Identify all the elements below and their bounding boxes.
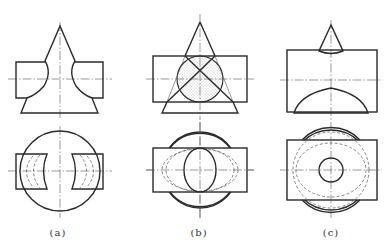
panel-c-front-view [280,20,382,120]
panel-c-label: (c) [323,227,339,238]
panel-b-top-view [146,122,254,218]
engineering-drawing [0,0,390,249]
panel-a-top-view [8,126,112,218]
panel-a-label: (a) [50,227,67,238]
panel-c-top-view [280,122,382,218]
panel-a-front-view [8,22,112,118]
panel-b-front-view [146,14,254,120]
panel-b-label: (b) [190,227,207,238]
